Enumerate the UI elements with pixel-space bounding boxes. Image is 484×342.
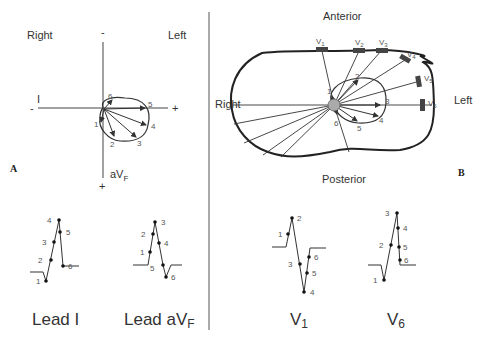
label-plus-right: + — [172, 102, 178, 114]
loop-point-4: 4 — [151, 122, 156, 131]
loop-b-point-4: 4 — [379, 116, 384, 125]
electrode-v6: V6 — [428, 99, 437, 109]
svg-text:5: 5 — [66, 228, 71, 237]
svg-text:2: 2 — [297, 214, 302, 223]
panel-letter-b: B — [458, 167, 465, 178]
tracing-lead-avf: 1 2 3 4 5 6 Lead aVF — [124, 218, 195, 331]
svg-text:6: 6 — [314, 253, 319, 262]
label-right-b: Right — [215, 98, 241, 110]
label-avf: aVF — [110, 168, 128, 183]
loop-b-point-6: 6 — [334, 119, 339, 128]
panel-a-frontal-plane: Right Left - I - + aVF + A 1 2 3 4 5 6 — [10, 26, 186, 192]
label-lead-i: I — [37, 93, 40, 105]
svg-text:3: 3 — [385, 209, 390, 218]
vectorcardiogram-diagram: Right Left - I - + aVF + A 1 2 3 4 5 6 — [0, 0, 484, 342]
tracing-title-lead-avf: Lead aVF — [124, 310, 195, 331]
loop-point-1: 1 — [94, 120, 99, 129]
svg-text:2: 2 — [379, 241, 384, 250]
svg-text:6: 6 — [171, 273, 176, 282]
svg-text:4: 4 — [164, 239, 169, 248]
svg-text:3: 3 — [288, 260, 293, 269]
label-left: Left — [168, 29, 186, 41]
loop-b-point-3: 3 — [385, 97, 390, 106]
svg-text:1: 1 — [278, 230, 283, 239]
panel-b-horizontal-plane: Anterior Posterior Right Left B — [215, 10, 472, 185]
tracing-v1: 1 2 3 4 5 6 V1 — [272, 214, 326, 331]
svg-text:6: 6 — [68, 262, 73, 271]
electrode-v3: V3 — [379, 38, 388, 48]
svg-text:1: 1 — [373, 276, 378, 285]
svg-text:4: 4 — [47, 216, 52, 225]
electrode-v2: V2 — [355, 38, 364, 48]
tracing-lead-i: 1 2 3 4 5 6 Lead I — [30, 216, 79, 329]
loop-point-6: 6 — [108, 92, 113, 101]
tracing-title-v1: V1 — [290, 310, 308, 331]
svg-text:4: 4 — [403, 224, 408, 233]
svg-text:5: 5 — [150, 264, 155, 273]
label-left-b: Left — [454, 94, 472, 106]
tracing-v6: 1 2 3 4 5 6 V6 — [368, 209, 416, 331]
svg-text:3: 3 — [161, 218, 166, 227]
svg-text:2: 2 — [38, 256, 43, 265]
svg-text:4: 4 — [310, 288, 315, 297]
loop-b-point-2: 2 — [355, 72, 360, 81]
loop-point-2: 2 — [110, 140, 115, 149]
loop-b-point-5: 5 — [357, 124, 362, 133]
panel-letter-a: A — [10, 163, 18, 174]
label-plus-bottom: + — [99, 180, 105, 192]
label-right: Right — [27, 29, 53, 41]
svg-text:3: 3 — [42, 238, 47, 247]
loop-b-point-1: 1 — [327, 87, 332, 96]
svg-text:2: 2 — [141, 230, 146, 239]
loop-point-5: 5 — [148, 100, 153, 109]
svg-text:1: 1 — [140, 248, 145, 257]
label-minus-top: - — [101, 26, 105, 38]
svg-text:6: 6 — [404, 256, 409, 265]
svg-text:1: 1 — [36, 277, 41, 286]
label-anterior: Anterior — [323, 10, 362, 22]
svg-text:5: 5 — [403, 243, 408, 252]
qrs-loop — [100, 97, 149, 141]
electrode-v1: V1 — [316, 37, 325, 47]
heart-center — [328, 99, 340, 111]
label-posterior: Posterior — [322, 173, 366, 185]
loop-point-3: 3 — [137, 139, 142, 148]
tracing-title-v6: V6 — [387, 310, 405, 331]
electrode-v4: V4 — [407, 50, 416, 60]
label-minus-left: - — [30, 102, 34, 114]
vector-arrows — [101, 100, 146, 137]
svg-text:5: 5 — [312, 269, 317, 278]
tracing-title-lead-i: Lead I — [32, 310, 79, 329]
